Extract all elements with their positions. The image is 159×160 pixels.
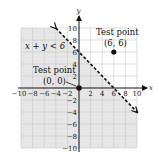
svg-text:−4: −4 (67, 109, 78, 117)
x-axis-label: x (149, 84, 153, 92)
y-axis-label: y (76, 7, 82, 15)
svg-text:−4: −4 (51, 90, 62, 98)
svg-text:−8: −8 (27, 90, 37, 98)
svg-text:10: 10 (68, 25, 77, 33)
svg-text:8: 8 (123, 90, 127, 98)
test-point-1-title: Test point (96, 27, 139, 37)
svg-text:8: 8 (73, 37, 77, 45)
test-point-2-title: Test point (33, 65, 76, 75)
svg-text:10: 10 (133, 90, 142, 98)
svg-text:−10: −10 (62, 145, 77, 153)
inequality-label: x + y < 6 (25, 41, 66, 51)
svg-text:4: 4 (100, 90, 105, 98)
svg-text:2: 2 (88, 90, 92, 98)
svg-text:6: 6 (73, 49, 78, 57)
inequality-graph: x y −10 −8 −6 −4 −2 2 4 6 8 10 10 8 6 4 … (0, 0, 159, 160)
test-point-2-dot (76, 85, 82, 91)
svg-text:−8: −8 (67, 133, 77, 141)
test-point-2-coords: (0, 0) (43, 76, 66, 86)
svg-text:6: 6 (112, 90, 117, 98)
test-point-1-dot (111, 49, 116, 54)
svg-text:−2: −2 (67, 97, 77, 105)
svg-text:−10: −10 (12, 90, 27, 98)
test-point-1-coords: (6, 6) (104, 38, 127, 48)
svg-text:−6: −6 (67, 121, 78, 129)
svg-text:−6: −6 (39, 90, 50, 98)
